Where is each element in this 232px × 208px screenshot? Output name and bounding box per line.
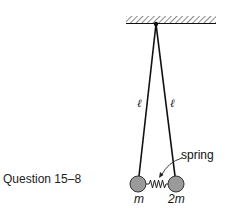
ball-right <box>168 176 184 192</box>
length-label-left: ℓ <box>137 97 142 109</box>
mass-right-label: 2m <box>168 192 185 206</box>
spring-pointer-arrow <box>161 158 182 176</box>
spring-label: spring <box>181 148 214 162</box>
question-caption: Question 15–8 <box>3 172 81 186</box>
ball-left <box>130 176 146 192</box>
mass-left-label: m <box>134 192 144 206</box>
ceiling <box>126 16 216 24</box>
spring <box>146 180 168 188</box>
length-label-right: ℓ <box>170 97 175 109</box>
